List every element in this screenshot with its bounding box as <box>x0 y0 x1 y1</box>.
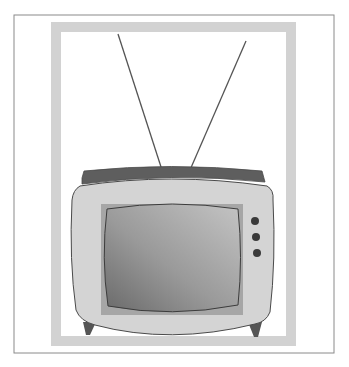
knob-icon <box>252 233 260 241</box>
knob-icon <box>253 249 261 257</box>
tv-screen <box>104 204 240 312</box>
knob-icon <box>251 217 259 225</box>
tv-illustration <box>0 0 349 367</box>
